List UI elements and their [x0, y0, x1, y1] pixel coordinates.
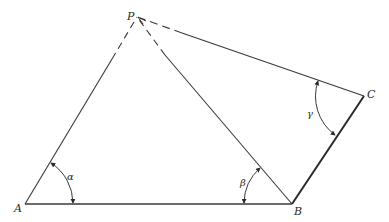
point-label-a: A — [14, 203, 22, 214]
point-label-c: C — [367, 89, 375, 100]
segment-ap-dashed — [112, 17, 137, 59]
angle-label-beta: β — [240, 178, 246, 188]
segment-cp-solid — [182, 33, 364, 96]
segment-cp-dashed — [140, 18, 182, 33]
diagram-canvas — [0, 0, 389, 222]
angle-label-gamma: γ — [307, 109, 313, 119]
angle-beta-arc — [244, 168, 260, 203]
angle-label-alpha: α — [67, 172, 74, 182]
angle-alpha-arc — [51, 163, 73, 203]
triangulation-diagram: P A B C α β γ — [0, 0, 389, 222]
point-label-p: P — [127, 11, 134, 22]
p-arrowhead-icon — [138, 17, 146, 24]
segment-bp-solid — [165, 55, 292, 204]
angle-gamma-arc — [315, 81, 335, 135]
segment-bp-dashed — [137, 17, 165, 55]
segment-bc — [292, 96, 364, 204]
point-label-b: B — [294, 206, 302, 217]
